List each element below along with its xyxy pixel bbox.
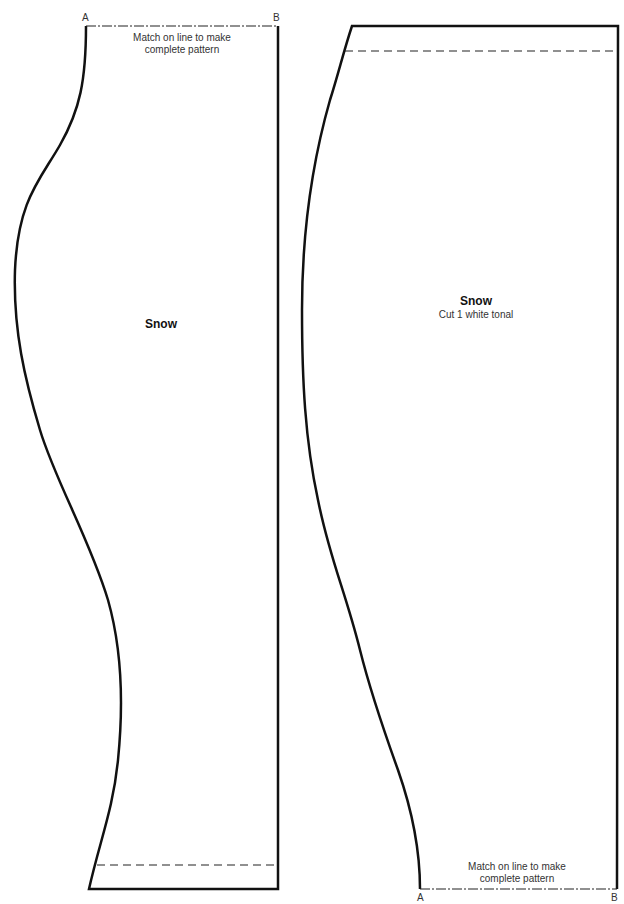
right-match-note: Match on line to make complete pattern [432, 861, 602, 885]
left-match-note-line2: complete pattern [97, 44, 267, 56]
left-piece-outline [15, 26, 278, 889]
right-corner-b-label: B [611, 892, 618, 903]
left-pattern-piece [15, 26, 278, 889]
right-corner-a-label: A [417, 892, 424, 903]
left-piece-title: Snow [81, 317, 241, 331]
pattern-drawing [0, 0, 624, 904]
left-match-note: Match on line to make complete pattern [97, 32, 267, 56]
right-piece-outline [302, 26, 618, 889]
right-match-note-line2: complete pattern [432, 873, 602, 885]
right-piece-title: Snow [396, 294, 556, 308]
left-corner-b-label: B [273, 12, 280, 23]
right-pattern-piece [302, 26, 618, 889]
right-piece-subtitle: Cut 1 white tonal [396, 309, 556, 320]
left-corner-a-label: A [82, 12, 89, 23]
left-match-note-line1: Match on line to make [97, 32, 267, 44]
right-match-note-line1: Match on line to make [432, 861, 602, 873]
